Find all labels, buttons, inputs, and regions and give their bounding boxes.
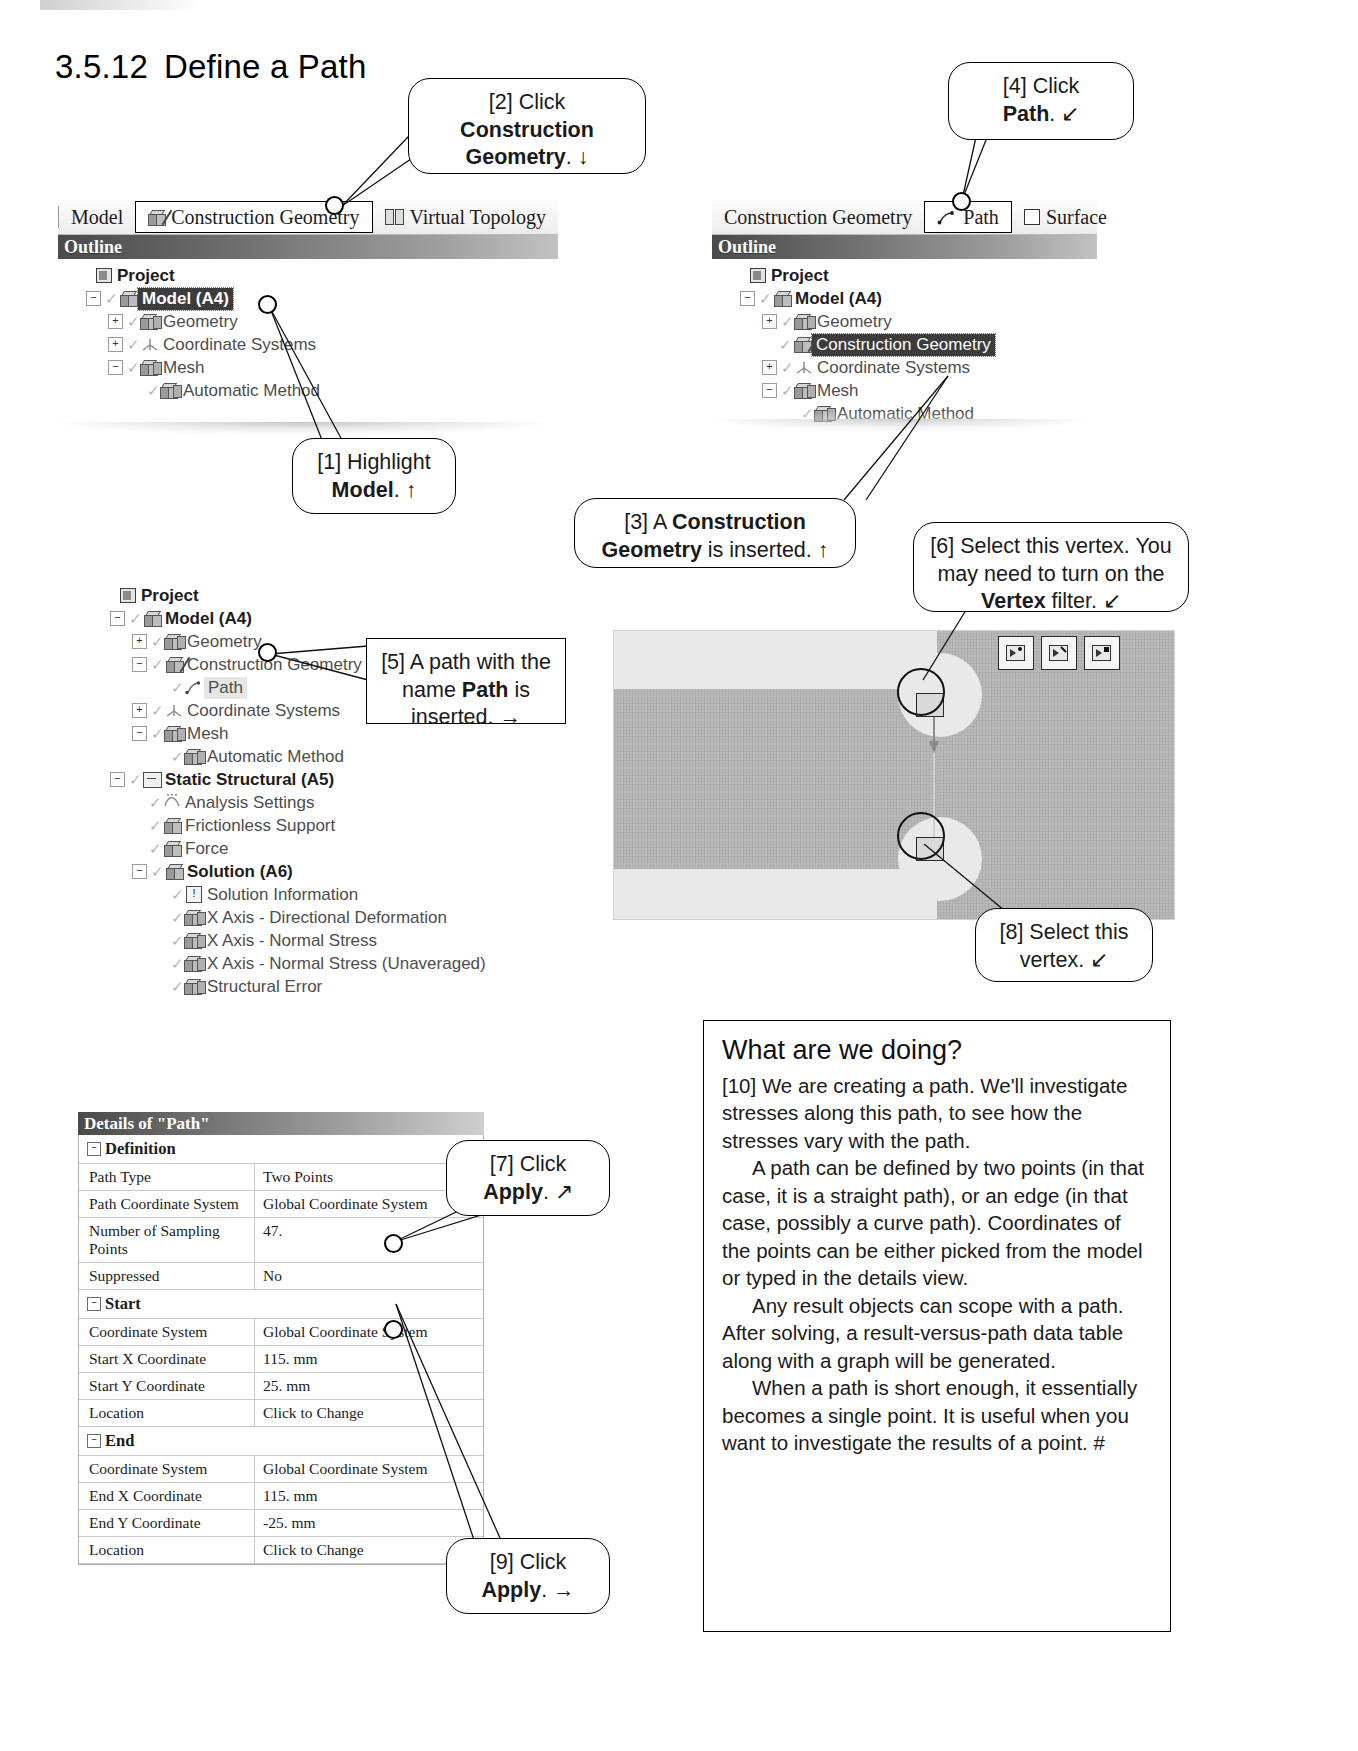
details-table[interactable]: −DefinitionPath TypeTwo PointsPath Coord… — [78, 1135, 484, 1565]
scan-fade — [712, 411, 1097, 445]
expand-icon[interactable]: + — [132, 703, 147, 718]
tree-spacer — [762, 338, 775, 351]
tree-node-icon — [164, 657, 184, 672]
tree-node[interactable]: ✓Automatic Method — [82, 745, 502, 768]
result-icon — [184, 979, 204, 994]
collapse-icon[interactable]: − — [132, 864, 147, 879]
tab-virtual-topology[interactable]: Virtual Topology — [373, 200, 558, 234]
expand-icon[interactable]: + — [132, 634, 147, 649]
tree-node[interactable]: ✓!Solution Information — [82, 883, 502, 906]
tree-spacer — [132, 819, 145, 832]
collapse-icon[interactable]: − — [87, 1142, 101, 1156]
details-group-row[interactable]: −End — [79, 1427, 483, 1456]
collapse-icon[interactable]: − — [740, 291, 755, 306]
tree-node[interactable]: Project — [712, 264, 1097, 287]
edge-filter-button[interactable] — [1041, 636, 1077, 670]
details-row-key: Start Y Coordinate — [79, 1373, 255, 1399]
details-row[interactable]: Path Coordinate SystemGlobal Coordinate … — [79, 1191, 483, 1218]
tree-node-icon: ! — [184, 886, 204, 903]
tree-node-label: X Axis - Normal Stress — [204, 931, 377, 951]
tree-node[interactable]: ✓Frictionless Support — [82, 814, 502, 837]
tree-node-icon — [164, 726, 184, 741]
collapse-icon[interactable]: − — [108, 360, 123, 375]
details-row[interactable]: End Y Coordinate-25. mm — [79, 1510, 483, 1537]
callout-9-bold: Apply — [481, 1578, 541, 1602]
details-row[interactable]: LocationClick to Change — [79, 1537, 483, 1564]
details-row[interactable]: Number of Sampling Points47. — [79, 1218, 483, 1263]
details-row-value[interactable]: 47. — [255, 1218, 483, 1262]
collapse-icon[interactable]: − — [132, 657, 147, 672]
details-row-value[interactable]: -25. mm — [255, 1510, 483, 1536]
callout-5: [5] A path with the name Path is inserte… — [366, 638, 566, 724]
tree-node[interactable]: ✓X Axis - Normal Stress (Unaveraged) — [82, 952, 502, 975]
collapse-icon[interactable]: − — [87, 1297, 101, 1311]
expand-icon[interactable]: + — [108, 337, 123, 352]
expand-icon[interactable]: + — [762, 360, 777, 375]
tree-node[interactable]: −✓Model (A4) — [82, 607, 502, 630]
collapse-icon[interactable]: − — [762, 383, 777, 398]
collapse-icon[interactable]: − — [110, 611, 125, 626]
selection-filter-toolbar[interactable] — [998, 636, 1120, 670]
vertex-filter-button[interactable] — [998, 636, 1034, 670]
tree-node[interactable]: −✓Mesh — [712, 379, 1097, 402]
tree-node[interactable]: +✓Coordinate Systems — [58, 333, 558, 356]
details-row[interactable]: End X Coordinate115. mm — [79, 1483, 483, 1510]
collapse-icon[interactable]: − — [110, 772, 125, 787]
outline-tree-b[interactable]: Project−✓Model (A4)+✓Geometry✓Constructi… — [712, 259, 1097, 425]
details-row-value[interactable]: 115. mm — [255, 1346, 483, 1372]
check-icon: ✓ — [171, 750, 184, 763]
tree-node[interactable]: +✓Geometry — [712, 310, 1097, 333]
face-filter-button[interactable] — [1084, 636, 1120, 670]
tree-node-icon — [140, 314, 160, 329]
tree-node[interactable]: ✓Analysis Settings — [82, 791, 502, 814]
details-row[interactable]: Path TypeTwo Points — [79, 1164, 483, 1191]
callout-4-hotspot — [952, 192, 971, 211]
details-row-value[interactable]: 25. mm — [255, 1373, 483, 1399]
details-row[interactable]: Start X Coordinate115. mm — [79, 1346, 483, 1373]
details-row[interactable]: Coordinate SystemGlobal Coordinate Syste… — [79, 1319, 483, 1346]
tree-node[interactable]: +✓Geometry — [58, 310, 558, 333]
tree-node[interactable]: ✓Construction Geometry — [712, 333, 1097, 356]
details-row[interactable]: SuppressedNo — [79, 1263, 483, 1290]
tree-node[interactable]: −✓Model (A4) — [712, 287, 1097, 310]
model-viewport[interactable] — [613, 630, 1175, 920]
tree-node[interactable]: ✓X Axis - Normal Stress — [82, 929, 502, 952]
details-row[interactable]: Start Y Coordinate25. mm — [79, 1373, 483, 1400]
details-row-value[interactable]: Global Coordinate System — [255, 1456, 483, 1482]
details-row-value[interactable]: Click to Change — [255, 1400, 483, 1426]
tab-construction-geometry-b[interactable]: Construction Geometry — [712, 200, 924, 234]
tree-node[interactable]: ✓X Axis - Directional Deformation — [82, 906, 502, 929]
expand-icon[interactable]: + — [108, 314, 123, 329]
callout-9-post: . → — [541, 1578, 574, 1602]
solution-information-icon: ! — [186, 886, 202, 903]
details-row[interactable]: LocationClick to Change — [79, 1400, 483, 1427]
tab-model[interactable]: Model — [59, 200, 135, 234]
callout-5-line2pre: name — [402, 678, 462, 702]
cube-icon — [144, 611, 161, 626]
tree-node[interactable]: ✓Force — [82, 837, 502, 860]
tree-node[interactable]: −✓Solution (A6) — [82, 860, 502, 883]
tree-node[interactable]: −✓Model (A4) — [58, 287, 558, 310]
details-row[interactable]: Coordinate SystemGlobal Coordinate Syste… — [79, 1456, 483, 1483]
tree-node[interactable]: ✓Automatic Method — [58, 379, 558, 402]
details-row-value[interactable]: Global Coordinate System — [255, 1319, 483, 1345]
tree-node[interactable]: −✓Mesh — [58, 356, 558, 379]
details-group-row[interactable]: −Start — [79, 1290, 483, 1319]
cube-slash-icon — [166, 657, 183, 672]
details-group-row[interactable]: −Definition — [79, 1135, 483, 1164]
tree-node[interactable]: Project — [82, 584, 502, 607]
tree-node[interactable]: ✓Structural Error — [82, 975, 502, 998]
outline-tree-a[interactable]: Project−✓Model (A4)+✓Geometry+✓Coordinat… — [58, 259, 558, 402]
tab-surface[interactable]: Surface — [1012, 200, 1119, 234]
collapse-icon[interactable]: − — [86, 291, 101, 306]
details-row-value[interactable]: 115. mm — [255, 1483, 483, 1509]
collapse-icon[interactable]: − — [87, 1434, 101, 1448]
expand-icon[interactable]: + — [762, 314, 777, 329]
details-row-value[interactable]: No — [255, 1263, 483, 1289]
tree-node[interactable]: −✓Static Structural (A5) — [82, 768, 502, 791]
collapse-icon[interactable]: − — [132, 726, 147, 741]
tree-node[interactable]: +✓Coordinate Systems — [712, 356, 1097, 379]
check-icon: ✓ — [147, 384, 160, 397]
tree-node[interactable]: Project — [58, 264, 558, 287]
check-icon: ✓ — [171, 911, 184, 924]
